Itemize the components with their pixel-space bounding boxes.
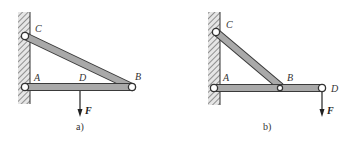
arrowhead-icon	[320, 109, 325, 117]
pin-C-b	[212, 28, 219, 35]
label-F-a: F	[84, 105, 92, 116]
label-A-a: A	[33, 72, 41, 83]
figure-a: C A D B F a)	[18, 12, 141, 133]
figure-b: C A B D F b)	[208, 12, 339, 133]
label-D-b: D	[330, 83, 339, 94]
pin-B-a	[128, 83, 135, 90]
label-B-b: B	[287, 72, 293, 83]
label-C-a: C	[35, 23, 42, 34]
label-A-b: A	[222, 72, 230, 83]
pin-D-b	[318, 84, 325, 91]
pin-B-b	[277, 85, 282, 90]
pin-A-b	[210, 84, 217, 91]
label-B-a: B	[135, 71, 141, 82]
pin-A-a	[21, 83, 28, 90]
label-F-b: F	[326, 105, 334, 116]
arrowhead-icon	[78, 109, 83, 117]
caption-a: a)	[76, 121, 84, 133]
pin-C-a	[21, 32, 28, 39]
label-D-a: D	[78, 72, 87, 83]
caption-b: b)	[263, 121, 271, 133]
label-C-b: C	[226, 19, 233, 30]
